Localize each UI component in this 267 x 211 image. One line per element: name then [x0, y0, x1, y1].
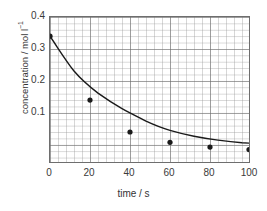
x-axis-tick-label: 40 [114, 168, 144, 178]
x-axis-tick-label: 100 [234, 168, 264, 178]
y-axis-title-superscript: −1 [17, 21, 24, 29]
y-tick-text-0.2: 0.2 [31, 74, 45, 85]
data-point-40s [127, 129, 132, 134]
x-tick-text-0: 0 [46, 167, 52, 178]
chart-container: 0.4 0.3 0.2 0.1 concentration / mol l−1 … [0, 0, 267, 211]
x-axis-tick-label: 20 [74, 168, 104, 178]
decay-curve-svg [50, 17, 250, 163]
data-point-100s [246, 147, 250, 152]
y-tick-text-0.3: 0.3 [31, 42, 45, 53]
data-point-80s [207, 145, 212, 150]
x-tick-text-20: 20 [83, 167, 94, 178]
decay-curve-path [50, 36, 250, 143]
y-axis-title: concentration / mol l−1 [19, 0, 30, 138]
x-axis-tick-label: 80 [194, 168, 224, 178]
x-tick-text-40: 40 [123, 167, 134, 178]
x-axis-title: time / s [0, 188, 267, 199]
y-tick-text-0.1: 0.1 [31, 106, 45, 117]
x-tick-text-60: 60 [163, 167, 174, 178]
data-point-20s [87, 98, 92, 103]
x-tick-text-100: 100 [241, 167, 258, 178]
y-tick-text-0.4: 0.4 [31, 10, 45, 21]
y-axis-title-text: concentration / mol l [19, 29, 30, 114]
x-axis-tick-label: 60 [154, 168, 184, 178]
plot-area [49, 16, 250, 163]
x-axis-tick-label: 0 [34, 168, 64, 178]
data-point-60s [167, 140, 172, 145]
x-tick-text-80: 80 [203, 167, 214, 178]
